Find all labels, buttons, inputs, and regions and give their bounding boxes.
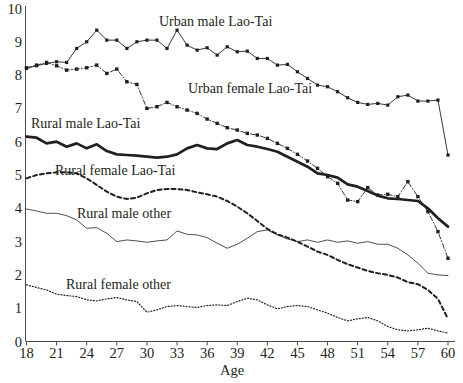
x-tick-label-45: 45	[282, 346, 312, 361]
x-axis-title: Age	[202, 362, 262, 379]
data-point	[416, 195, 419, 198]
data-point	[286, 147, 289, 150]
data-point	[185, 108, 188, 111]
data-point	[386, 103, 389, 106]
data-point	[195, 112, 198, 115]
data-point	[95, 63, 98, 66]
data-point	[446, 257, 449, 260]
y-tick-label-5: 5	[0, 168, 22, 183]
data-point	[406, 180, 409, 183]
line-chart-figure: 109876543210 182124273033363942454851545…	[0, 0, 463, 383]
data-point	[436, 98, 439, 101]
x-tick-label-24: 24	[72, 346, 102, 361]
data-point	[105, 72, 108, 75]
x-tick-label-42: 42	[252, 346, 282, 361]
data-point	[246, 50, 249, 53]
data-point	[366, 103, 369, 106]
x-tick-label-54: 54	[373, 346, 403, 361]
x-tick-label-36: 36	[192, 346, 222, 361]
data-point	[436, 230, 439, 233]
data-point	[206, 46, 209, 49]
y-tick-label-8: 8	[0, 68, 22, 83]
x-tick-label-60: 60	[433, 346, 463, 361]
data-point	[216, 54, 219, 57]
series-label-urban-male-lao-tai: Urban male Lao-Tai	[159, 14, 272, 30]
data-point	[196, 49, 199, 52]
data-point	[446, 153, 449, 156]
data-point	[185, 44, 188, 47]
data-point	[85, 66, 88, 69]
data-point	[356, 101, 359, 104]
data-point	[125, 47, 128, 50]
y-tick-label-10: 10	[0, 2, 22, 17]
y-tick-label-3: 3	[0, 235, 22, 250]
data-point	[266, 57, 269, 60]
data-point	[75, 47, 78, 50]
data-point	[135, 40, 138, 43]
x-tick-label-48: 48	[313, 346, 343, 361]
data-point	[236, 50, 239, 53]
data-point	[145, 39, 148, 42]
data-point	[396, 95, 399, 98]
series-label-rural-female-other: Rural female other	[66, 277, 171, 293]
plot-canvas	[0, 0, 463, 383]
series-label-rural-male-lao-tai: Rural male Lao-Tai	[31, 116, 140, 132]
data-point	[276, 64, 279, 67]
data-point	[316, 167, 319, 170]
data-point	[416, 99, 419, 102]
data-point	[55, 60, 58, 63]
data-point	[346, 96, 349, 99]
data-point	[366, 186, 369, 189]
data-point	[256, 57, 259, 60]
data-point	[65, 68, 68, 71]
data-point	[406, 93, 409, 96]
data-point	[356, 200, 359, 203]
data-point	[215, 122, 218, 125]
y-tick-label-2: 2	[0, 268, 22, 283]
x-tick-label-39: 39	[222, 346, 252, 361]
data-point	[135, 83, 138, 86]
y-tick-label-1: 1	[0, 301, 22, 316]
data-point	[95, 29, 98, 32]
data-point	[115, 39, 118, 42]
data-point	[256, 133, 259, 136]
data-point	[25, 66, 28, 69]
data-point	[125, 80, 128, 83]
data-point	[276, 142, 279, 145]
data-point	[85, 40, 88, 43]
data-point	[326, 85, 329, 88]
x-tick-label-27: 27	[102, 346, 132, 361]
x-tick-label-30: 30	[132, 346, 162, 361]
x-tick-label-57: 57	[403, 346, 433, 361]
data-point	[316, 83, 319, 86]
series-label-urban-female-lao-tai: Urban female Lao-Tai	[188, 81, 312, 97]
x-tick-label-18: 18	[12, 346, 42, 361]
data-point	[165, 47, 168, 50]
data-point	[155, 105, 158, 108]
data-point	[226, 126, 229, 129]
data-point	[115, 67, 118, 70]
data-point	[246, 132, 249, 135]
x-tick-label-51: 51	[343, 346, 373, 361]
x-tick-label-33: 33	[162, 346, 192, 361]
data-point	[306, 77, 309, 80]
data-point	[105, 39, 108, 42]
data-point	[226, 45, 229, 48]
data-point	[376, 102, 379, 105]
data-point	[45, 61, 48, 64]
data-point	[145, 107, 148, 110]
x-tick-label-21: 21	[42, 346, 72, 361]
data-point	[306, 159, 309, 162]
data-point	[155, 39, 158, 42]
data-point	[205, 117, 208, 120]
data-point	[296, 153, 299, 156]
data-point	[236, 128, 239, 131]
data-point	[336, 90, 339, 93]
data-point	[266, 137, 269, 140]
y-tick-label-4: 4	[0, 201, 22, 216]
data-point	[55, 64, 58, 67]
data-point	[336, 182, 339, 185]
data-point	[65, 61, 68, 64]
data-point	[286, 63, 289, 66]
data-point	[346, 198, 349, 201]
